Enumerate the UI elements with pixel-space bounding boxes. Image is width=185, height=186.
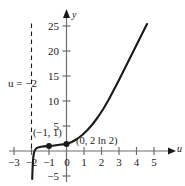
label-point-0-2ln2: (0, 2 ln 2) [76, 136, 117, 147]
x-axis-label: u [177, 144, 182, 154]
y-tick-label-20: 20 [37, 46, 59, 57]
graph-figure: −3 −2 −1 0 1 2 3 4 5 25 20 15 10 5 −5 y … [0, 0, 185, 186]
y-tick-label-10: 10 [37, 96, 59, 107]
point-minus1-1 [46, 143, 52, 149]
y-axis-label: y [72, 10, 76, 20]
label-point-minus1-1: (−1, 1) [33, 128, 62, 139]
y-tick-label-25: 25 [37, 21, 59, 32]
y-tick-label--5: −5 [37, 171, 59, 182]
y-axis-arrow-icon [63, 9, 70, 18]
asymptote-label: u = −2 [8, 78, 37, 89]
y-tick-label-15: 15 [37, 71, 59, 82]
x-axis-arrow-icon [168, 148, 176, 155]
x-tick-label--1: −1 [39, 157, 59, 168]
x-tick-label-5: 5 [144, 157, 164, 168]
point-0-2ln2 [64, 141, 70, 147]
